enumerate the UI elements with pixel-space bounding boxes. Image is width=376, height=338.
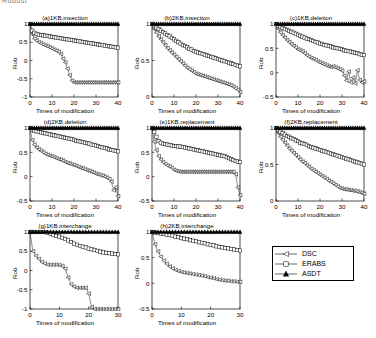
left-triangle-open-icon [273,249,299,259]
y-axis-label: Rob [133,57,140,68]
series-dsc [150,230,242,284]
panel-f: (f)2KB,replacement01020304000.51RobTimes… [252,118,370,222]
cropped-header-text: Robust [2,0,27,4]
y-tick-label: 0.5 [141,254,150,261]
x-tick-label: 20 [207,311,214,318]
series-asdt [28,22,120,26]
x-tick-label: 20 [317,203,324,210]
series-asdt [150,126,242,130]
y-axis-label: Rob [133,161,140,172]
x-tick-label: 40 [361,99,368,106]
series-asdt [150,22,242,26]
x-tick-label: 10 [178,311,185,318]
legend-item-asdt[interactable]: ASDT [273,269,353,279]
x-tick-label: 40 [237,99,244,106]
y-tick-label: 1 [270,124,274,131]
x-tick-label: 0 [274,99,278,106]
x-tick-label: 30 [237,311,244,318]
y-tick-label: -1 [22,305,28,312]
series-dsc [28,22,120,84]
x-axis-label: Times of modification [252,107,370,114]
y-tick-label: 1 [146,124,150,131]
figure-root: Robust (a)1KB,insection010203040-1-0.500… [0,0,376,338]
x-axis-label: Times of modification [6,211,124,218]
square-open-icon [273,259,299,269]
y-tick-label: 1 [24,124,28,131]
y-tick-label: 1 [146,228,150,235]
y-axis-label: Rob [133,267,140,278]
y-tick-label: 1 [146,20,150,27]
x-tick-label: 0 [150,311,154,318]
x-tick-label: 10 [49,99,56,106]
y-tick-label: 0.5 [19,149,28,156]
series-erabs [28,126,119,153]
x-tick-label: 40 [115,203,122,210]
y-tick-label: 0.5 [141,57,150,64]
x-tick-label: 30 [339,99,346,106]
legend-item-dsc[interactable]: DSC [273,249,353,259]
x-tick-label: 0 [28,311,32,318]
legend-label: ERABS [302,260,326,268]
legend-label: ASDT [302,270,321,278]
panel-title: (f)2KB,replacement [252,118,370,125]
x-tick-label: 20 [193,99,200,106]
panel-d: (d)2KB,deletion010203040-0.500.51RobTime… [6,118,124,222]
y-tick-label: 0 [146,280,150,287]
series-erabs [28,230,119,256]
x-tick-label: 10 [56,311,63,318]
y-tick-label: 0.5 [265,45,274,52]
series-asdt [274,126,366,130]
y-tick-label: 0 [24,173,28,180]
series-dsc [150,126,242,197]
x-axis-label: Times of modification [128,211,246,218]
panel-title: (b)2KB,insection [128,14,246,21]
y-tick-label: 0 [146,173,150,180]
y-tick-label: 0.5 [141,149,150,156]
y-tick-label: 0 [270,69,274,76]
y-axis-label: Rob [11,161,18,172]
panel-g: (g)1KB,interchange0102030-1-0.500.51RobT… [6,222,124,330]
plot-area: 010203040-0.500.51 [252,14,370,118]
y-tick-label: 0 [270,197,274,204]
panel-c: (c)1KB,deletion010203040-0.500.51RobTime… [252,14,370,118]
plot-area: 01020304000.51 [252,118,370,222]
y-axis-label: Rob [257,161,264,172]
x-axis-label: Times of modification [128,107,246,114]
x-axis-label: Times of modification [6,107,124,114]
y-tick-label: 0.5 [19,247,28,254]
x-tick-label: 30 [215,99,222,106]
x-tick-label: 10 [295,203,302,210]
plot-area: 010203040-0.500.51 [6,118,124,222]
panel-b: (b)2KB,insection01020304000.51RobTimes o… [128,14,246,118]
panel-title: (h)2KB,interchange [128,222,246,229]
series-dsc [28,126,120,198]
x-tick-label: 30 [93,99,100,106]
y-axis-label: Rob [11,57,18,68]
y-tick-label: 0 [24,267,28,274]
x-tick-label: 0 [274,203,278,210]
x-tick-label: 30 [115,311,122,318]
series-asdt [28,126,120,130]
x-axis-label: Times of modification [128,319,246,326]
y-axis-label: Rob [11,267,18,278]
legend-item-erabs[interactable]: ERABS [273,259,353,269]
x-tick-label: 10 [171,99,178,106]
series-asdt [28,230,120,234]
y-tick-label: -0.5 [139,305,150,312]
y-tick-label: 1 [24,20,28,27]
plot-area: 010203040-1-0.500.51 [6,14,124,118]
x-tick-label: 30 [215,203,222,210]
x-tick-label: 40 [237,203,244,210]
x-tick-label: 20 [193,203,200,210]
y-tick-label: -0.5 [17,286,28,293]
y-tick-label: -0.5 [139,197,150,204]
x-tick-label: 20 [85,311,92,318]
triangle-filled-icon [273,269,299,279]
x-tick-label: 0 [150,203,154,210]
plot-area: 01020304000.51 [128,14,246,118]
panel-title: (d)2KB,deletion [6,118,124,125]
legend-label: DSC [302,250,317,258]
panel-title: (g)1KB,interchange [6,222,124,229]
x-tick-label: 40 [361,203,368,210]
y-tick-label: -0.5 [263,93,274,100]
